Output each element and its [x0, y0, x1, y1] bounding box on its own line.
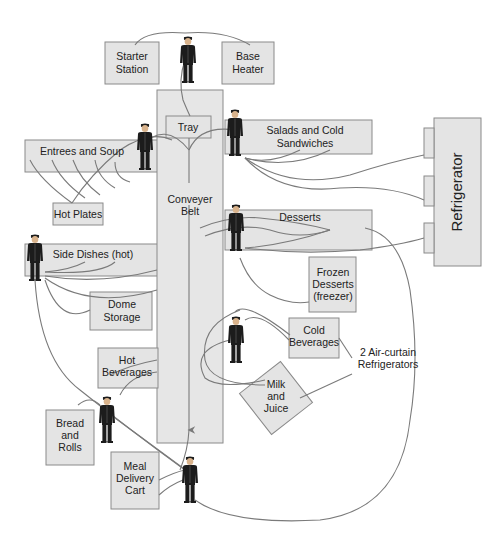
worker-cart-icon — [182, 456, 198, 503]
air-curtain-refrigerators-label: 2 Air-curtainRefrigerators — [358, 346, 419, 370]
refrigerator-door-1 — [424, 128, 434, 158]
hot-plates-label: Hot Plates — [54, 208, 102, 220]
refrigerator-label: Refrigerator — [448, 152, 465, 231]
dome-storage-label: DomeStorage — [104, 298, 141, 323]
refrigerator-door-2 — [424, 176, 434, 206]
frozen-desserts-label: FrozenDesserts(freezer) — [312, 266, 353, 302]
starter-station-label: StarterStation — [116, 50, 149, 75]
desserts-label: Desserts — [279, 211, 320, 223]
milk-and-juice-label: MilkandJuice — [264, 378, 289, 414]
salads-cold-sandwiches-label: Salads and ColdSandwiches — [266, 124, 343, 149]
worker-starter-icon — [180, 36, 196, 83]
tray-line-diagram: StarterStation BaseHeater Tray ConveyerB… — [0, 0, 504, 550]
worker-bread-icon — [99, 396, 115, 443]
worker-beverages-icon — [228, 316, 244, 363]
conveyer-belt — [157, 90, 223, 443]
side-dishes-label: Side Dishes (hot) — [53, 248, 134, 260]
refrigerator-door-3 — [424, 223, 434, 253]
base-heater-label: BaseHeater — [232, 50, 264, 75]
entrees-and-soup-label: Entrees and Soup — [40, 145, 124, 157]
tray-label: Tray — [178, 121, 199, 133]
